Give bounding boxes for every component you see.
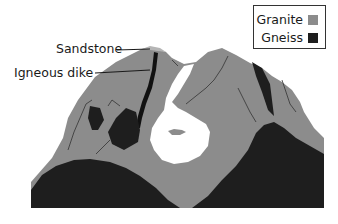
legend: Granite Gneiss xyxy=(253,5,326,49)
legend-label-granite: Granite xyxy=(257,14,303,27)
gneiss-swatch-icon xyxy=(308,33,318,43)
legend-item-granite: Granite xyxy=(254,12,325,28)
sandstone-label: Sandstone xyxy=(56,43,122,56)
legend-item-gneiss: Gneiss xyxy=(254,30,325,46)
legend-label-gneiss: Gneiss xyxy=(261,32,303,45)
igneous-dike-label: Igneous dike xyxy=(14,67,93,80)
granite-swatch-icon xyxy=(308,15,318,25)
